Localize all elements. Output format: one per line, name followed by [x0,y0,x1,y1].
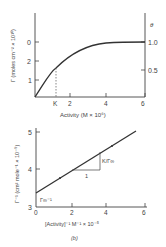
a-x-tick-4: 4 [104,100,108,107]
b-x-tick-4: 4 [104,209,108,216]
b-slope-label: K/Γ∞ [102,158,114,164]
a-y-tick-2: 2 [27,58,31,65]
b-x-tick-6: 6 [142,209,146,216]
b-y-tick-3: 3 [28,204,32,211]
panel-a: 0 2 1 θ 1.0 0.5 K 2 4 6 Activity (M × 10… [10,13,158,118]
a-y2-tick-05: 0.5 [148,67,158,74]
b-y-label: Γ⁻¹ (cm² mole⁻¹ × 10⁻⁹) [14,145,20,203]
a-y2-tick-1: 1.0 [148,39,158,46]
b-slope-triangle [72,152,100,170]
b-y-tick-4: 4 [28,166,32,173]
b-y-tick-5: 5 [28,129,32,136]
panel-b: K/Γ∞ 1 Γ∞⁻¹ 5 4 3 0 2 4 6 [Activity]⁻¹ M… [14,128,147,241]
b-data-point [59,177,61,179]
a-x-tick-2: 2 [68,100,72,107]
a-isotherm-curve [35,42,145,97]
b-x-tick-0: 0 [34,209,38,216]
a-theta-label: θ [150,22,154,28]
b-fit-line [36,131,136,193]
b-intercept-label: Γ∞⁻¹ [40,197,52,203]
b-x-tick-2: 2 [70,209,74,216]
a-y-tick-top: 0 [27,39,31,46]
a-x-tick-6: 6 [141,100,145,107]
a-x-label: Activity (M × 10⁶) [60,112,106,118]
a-y-tick-1: 1 [28,77,32,84]
b-data-point [111,145,113,147]
a-y-label: Γ (moles cm⁻² × 10¹⁰) [10,29,16,82]
b-x-label: [Activity]⁻¹ M⁻¹ × 10⁻⁵ [45,221,99,227]
figure: 0 2 1 θ 1.0 0.5 K 2 4 6 Activity (M × 10… [0,0,166,247]
a-x-tick-k: K [53,100,58,107]
b-run-label: 1 [85,173,88,179]
b-caption: (b) [71,235,78,241]
